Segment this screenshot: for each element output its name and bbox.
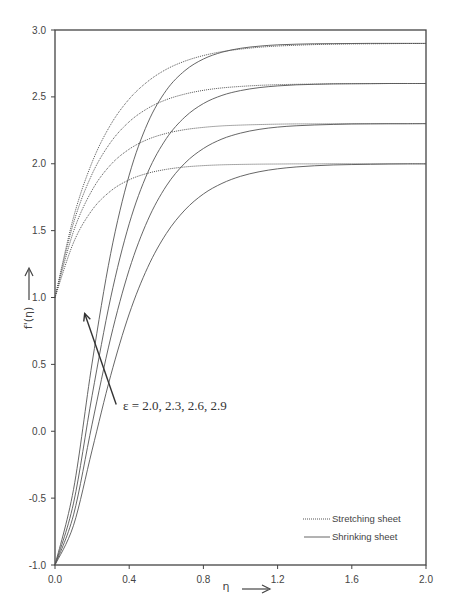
y-tick-label: 0.5	[32, 359, 46, 370]
series-line-shrinking-7	[55, 43, 426, 565]
legend-label: Shrinking sheet	[332, 531, 398, 542]
legend-item-stretching: Stretching sheet	[303, 513, 401, 524]
x-tick-label: 1.2	[271, 574, 285, 585]
x-axis-title-group: η	[223, 580, 270, 593]
series-line-stretching-3	[55, 44, 426, 298]
y-tick-label: -0.5	[29, 493, 47, 504]
y-tick-label: 2.5	[32, 91, 46, 102]
series-line-shrinking-4	[55, 164, 426, 565]
y-axis-ticks: -1.0-0.50.00.51.01.52.02.53.0	[29, 25, 55, 571]
annotation-arrow	[85, 314, 117, 405]
x-tick-label: 2.0	[419, 574, 433, 585]
y-tick-label: -1.0	[29, 560, 47, 571]
x-axis-title: η	[223, 580, 230, 593]
legend: Stretching sheet Shrinking sheet	[303, 513, 401, 542]
x-tick-label: 0.0	[48, 574, 62, 585]
x-tick-label: 0.4	[122, 574, 136, 585]
series-line-stretching-1	[55, 124, 426, 298]
y-tick-label: 1.5	[32, 225, 46, 236]
series-line-stretching-0	[55, 164, 426, 298]
y-tick-label: 0.0	[32, 426, 46, 437]
x-axis-ticks: 0.00.40.81.21.62.0	[48, 565, 433, 585]
x-axis-arrow-icon	[242, 585, 270, 593]
x-tick-label: 1.6	[345, 574, 359, 585]
y-tick-label: 3.0	[32, 25, 46, 36]
y-axis-title: f'(η)	[22, 307, 35, 329]
annotation-text: ε = 2.0, 2.3, 2.6, 2.9	[123, 398, 227, 413]
chart: -1.0-0.50.00.51.01.52.02.53.0 0.00.40.81…	[0, 0, 452, 607]
legend-item-shrinking: Shrinking sheet	[304, 531, 398, 542]
series-line-shrinking-5	[55, 124, 426, 565]
y-tick-label: 2.0	[32, 158, 46, 169]
series-line-shrinking-6	[55, 83, 426, 565]
legend-label: Stretching sheet	[332, 513, 401, 524]
y-tick-label: 1.0	[32, 292, 46, 303]
x-tick-label: 0.8	[196, 574, 210, 585]
curves	[55, 43, 426, 565]
